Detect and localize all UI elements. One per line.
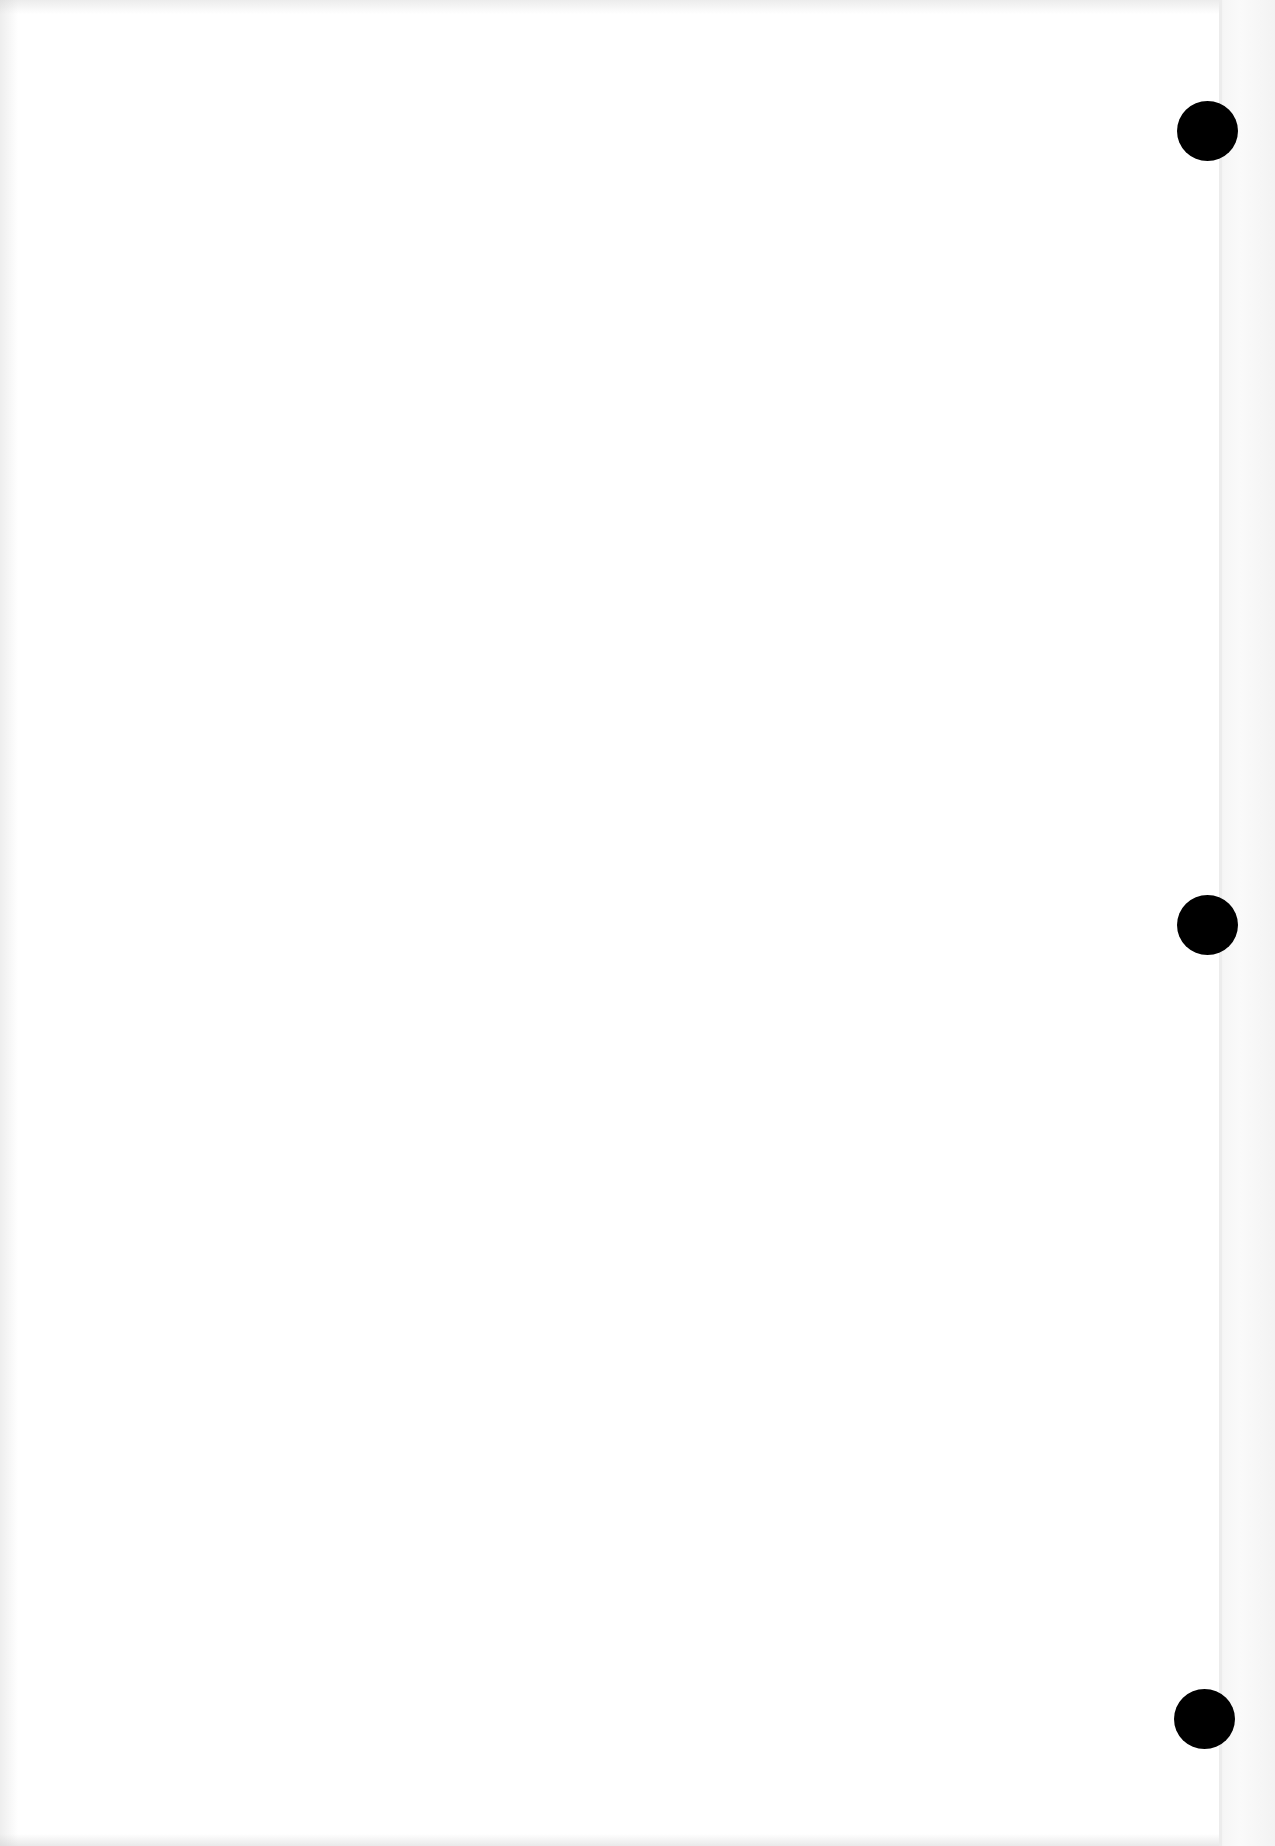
punch-hole-top: [1177, 101, 1238, 161]
scan-edge-shading-top: [0, 0, 1275, 14]
punch-hole-middle: [1177, 895, 1238, 955]
punch-hole-bottom: [1174, 1689, 1235, 1749]
scan-edge-shading-bottom: [0, 1834, 1275, 1846]
scan-edge-shading-left: [0, 0, 18, 1846]
blank-scanned-page: [0, 0, 1275, 1846]
